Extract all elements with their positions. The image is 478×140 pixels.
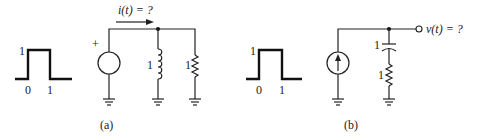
pulse-start-label: 0 xyxy=(25,83,31,97)
ground-icon xyxy=(152,99,164,105)
figure-a: 1 0 1 + i(t) = ? 1 xyxy=(15,3,201,132)
pulse-end-label: 1 xyxy=(47,83,53,97)
caption-a: (a) xyxy=(100,118,113,132)
pulse-amplitude-label: 1 xyxy=(19,44,25,58)
resistor-icon xyxy=(386,64,392,99)
resistor-value-label: 1 xyxy=(378,68,384,82)
caption-b: (b) xyxy=(344,118,358,132)
capacitor-icon xyxy=(382,29,396,64)
output-terminal-icon xyxy=(416,26,422,32)
ground-icon xyxy=(332,99,344,105)
pulse-end-label: 1 xyxy=(279,83,285,97)
inductor-value-label: 1 xyxy=(147,58,153,72)
ground-icon xyxy=(383,99,395,105)
capacitor-value-label: 1 xyxy=(374,38,380,52)
polarity-plus-label: + xyxy=(92,37,99,51)
pulse-waveform-b: 1 0 1 xyxy=(246,44,302,97)
figure-b: 1 0 1 v(t) = ? 1 1 xyxy=(246,22,463,132)
current-label: i(t) = ? xyxy=(118,3,153,17)
pulse-amplitude-label: 1 xyxy=(250,44,256,58)
resistor-icon xyxy=(192,55,198,99)
pulse-start-label: 0 xyxy=(256,83,262,97)
ground-icon xyxy=(103,99,115,105)
current-arrow-icon xyxy=(116,19,154,25)
wire-top-a xyxy=(109,29,195,55)
ground-icon xyxy=(189,99,201,105)
current-source-icon xyxy=(327,52,349,74)
resistor-value-label: 1 xyxy=(185,58,191,72)
output-voltage-label: v(t) = ? xyxy=(426,22,463,36)
inductor-icon xyxy=(158,29,162,99)
circuit-figure: 1 0 1 + i(t) = ? 1 xyxy=(0,0,478,140)
pulse-waveform-a: 1 0 1 xyxy=(15,44,72,97)
voltage-source-icon: + xyxy=(92,37,120,74)
